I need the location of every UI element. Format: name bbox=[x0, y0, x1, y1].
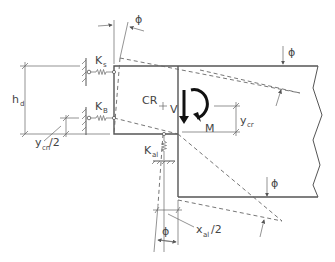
svg-text:al: al bbox=[203, 231, 209, 239]
ycr-dimension: y cr bbox=[182, 102, 254, 136]
svg-text:K: K bbox=[95, 54, 103, 67]
diagram-canvas: ϕ ϕ ϕ K s K B bbox=[0, 0, 335, 262]
spring-ks: K s bbox=[82, 54, 116, 86]
phi-top-left-dimension: ϕ bbox=[98, 13, 144, 64]
ycn-half-dimension: y cn /2 bbox=[35, 115, 79, 152]
svg-text:V: V bbox=[170, 103, 178, 116]
break-line bbox=[313, 66, 322, 197]
svg-text:s: s bbox=[103, 61, 107, 69]
svg-text:/2: /2 bbox=[211, 223, 222, 236]
svg-text:B: B bbox=[103, 107, 108, 115]
diagram-svg: ϕ ϕ ϕ K s K B bbox=[0, 0, 335, 262]
phi-label: ϕ bbox=[271, 177, 278, 190]
svg-text:al: al bbox=[152, 151, 158, 159]
phi-bottom-right-dimension: ϕ bbox=[260, 177, 278, 237]
svg-text:d: d bbox=[20, 100, 24, 108]
beam-outline bbox=[178, 66, 322, 197]
svg-text:y: y bbox=[35, 136, 42, 149]
svg-text:cr: cr bbox=[247, 121, 254, 129]
center-of-rotation: CR bbox=[142, 94, 167, 110]
phi-bottom-dimension: ϕ bbox=[154, 205, 176, 252]
spring-kal: K al bbox=[144, 132, 175, 252]
spring-kb: K B bbox=[82, 100, 116, 135]
moment-m: M bbox=[191, 90, 215, 135]
svg-text:ϕ: ϕ bbox=[162, 225, 169, 238]
svg-text:/2: /2 bbox=[49, 136, 60, 149]
svg-text:y: y bbox=[240, 114, 247, 127]
svg-text:x: x bbox=[196, 223, 203, 236]
svg-text:K: K bbox=[144, 144, 152, 157]
shear-force-v: V bbox=[170, 90, 189, 124]
xal-half-dimension: x al /2 bbox=[153, 200, 222, 245]
svg-text:h: h bbox=[12, 93, 19, 106]
svg-text:CR: CR bbox=[142, 94, 158, 107]
phi-label: ϕ bbox=[135, 13, 142, 26]
phi-top-right-dimension: ϕ bbox=[276, 46, 295, 106]
svg-text:M: M bbox=[205, 122, 215, 135]
svg-text:K: K bbox=[95, 100, 103, 113]
phi-label: ϕ bbox=[288, 46, 295, 59]
